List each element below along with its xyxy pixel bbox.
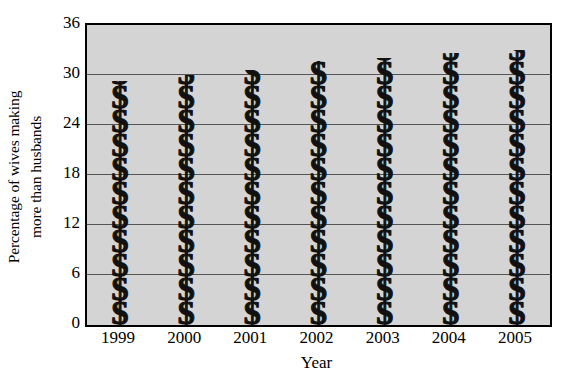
bar: $$$$$$$$$$$$	[237, 70, 267, 325]
bar: $$$$$$$$$$$$	[105, 81, 135, 325]
dollar-sign-pictograph: $	[304, 301, 334, 325]
x-axis-tick-label: 2001	[215, 328, 285, 348]
y-axis-tick-label: 30	[40, 64, 80, 81]
x-axis-tick-label: 2000	[149, 328, 219, 348]
x-axis-tick-labels: 1999200020012002200320042005	[85, 328, 548, 352]
dollar-sign-pictograph: $	[502, 301, 532, 325]
y-axis-tick-label: 36	[40, 14, 80, 31]
x-axis-tick-label: 2003	[348, 328, 418, 348]
bar: $$$$$$$$$$$$$	[436, 53, 466, 325]
bar: $$$$$$$$$$$$$	[370, 58, 400, 325]
bar: $$$$$$$$$$$$	[171, 75, 201, 325]
bar-series: $$$$$$$$$$$$$$$$$$$$$$$$$$$$$$$$$$$$$$$$…	[87, 25, 550, 325]
bar: $$$$$$$$$$$$$	[304, 61, 334, 325]
x-axis-tick-label: 1999	[83, 328, 153, 348]
x-axis-tick-label: 2004	[414, 328, 484, 348]
x-axis-title: Year	[85, 353, 548, 373]
y-axis-tick-label: 18	[40, 164, 80, 181]
dollar-sign-pictograph: $	[370, 301, 400, 325]
bar: $$$$$$$$$$$$$	[502, 50, 532, 325]
y-axis-tick-label: 12	[40, 214, 80, 231]
dollar-sign-pictograph: $	[171, 301, 201, 325]
dollar-sign-pictograph: $	[105, 301, 135, 325]
x-axis-tick-label: 2002	[282, 328, 352, 348]
y-axis-title-line-1: Percentage of wives making	[3, 17, 25, 337]
x-axis-tick-label: 2005	[480, 328, 550, 348]
y-axis-tick-labels: 061218243036	[36, 0, 80, 382]
y-axis-tick-label: 0	[40, 314, 80, 331]
dollar-sign-pictograph: $	[436, 301, 466, 325]
y-axis-tick-label: 6	[40, 264, 80, 281]
chart-container: Percentage of wives making more than hus…	[0, 0, 561, 382]
dollar-sign-pictograph: $	[237, 301, 267, 325]
y-axis-tick-label: 24	[40, 114, 80, 131]
plot-area: $$$$$$$$$$$$$$$$$$$$$$$$$$$$$$$$$$$$$$$$…	[85, 23, 552, 327]
